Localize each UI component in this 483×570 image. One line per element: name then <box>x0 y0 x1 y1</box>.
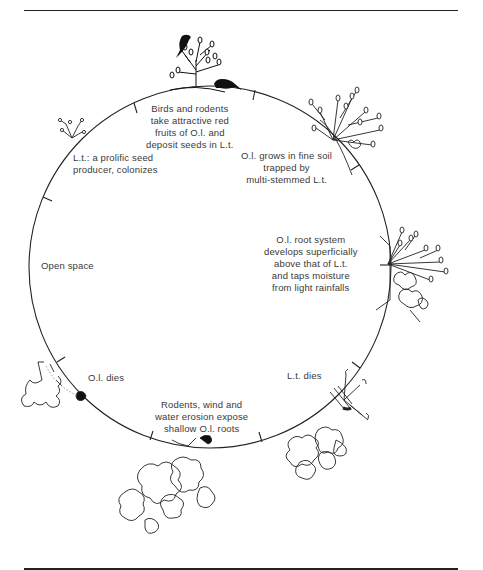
bird-icon <box>176 35 191 58</box>
label-line: fruits of O.l. and <box>146 127 234 139</box>
shrub-dead-lt-icon <box>330 369 369 420</box>
stage-label-ol-grows: O.l. grows in fine soil trapped by multi… <box>241 150 332 186</box>
label-line: multi-stemmed L.t. <box>241 174 332 186</box>
label-line: deposit seeds in L.t. <box>146 139 234 151</box>
label-line: and taps moisture <box>264 270 358 282</box>
label-line: develops superficially <box>264 246 358 258</box>
exposed-roots-icon <box>286 427 346 479</box>
shrub-ol-dead-icon <box>119 435 215 533</box>
shrub-lt-small-icon <box>58 118 85 138</box>
stage-label-lt-dies: L.t. dies <box>287 370 322 382</box>
label-line: Birds and rodents <box>146 103 234 115</box>
cycle-diagram <box>0 0 483 570</box>
stage-label-erosion: Rodents, wind and water erosion expose s… <box>155 399 248 435</box>
label-line: water erosion expose <box>155 411 248 423</box>
label-line: Open space <box>41 260 94 272</box>
label-line: O.l. grows in fine soil <box>241 150 332 162</box>
stage-label-open-space: Open space <box>41 260 94 272</box>
label-line: from light rainfalls <box>264 282 358 294</box>
label-line: Rodents, wind and <box>155 399 248 411</box>
label-line: O.l. dies <box>88 372 124 384</box>
stage-label-ol-dies: O.l. dies <box>88 372 124 384</box>
stage-label-ol-root-system: O.l. root system develops superficially … <box>264 234 358 294</box>
rodent-icon <box>214 79 242 90</box>
label-line: trapped by <box>241 162 332 174</box>
label-line: L.t.: a prolific seed <box>73 152 158 164</box>
stage-label-birds-rodents: Birds and rodents take attractive red fr… <box>146 103 234 151</box>
stage-label-lt-colonizes: L.t.: a prolific seed producer, colonize… <box>73 152 158 176</box>
label-line: above that of L.t. <box>264 258 358 270</box>
label-line: take attractive red <box>146 115 234 127</box>
label-line: O.l. root system <box>264 234 358 246</box>
label-line: producer, colonizes <box>73 164 158 176</box>
label-line: shallow O.l. roots <box>155 423 248 435</box>
shrub-ol-left-icon <box>21 362 86 407</box>
label-line: L.t. dies <box>287 370 322 382</box>
